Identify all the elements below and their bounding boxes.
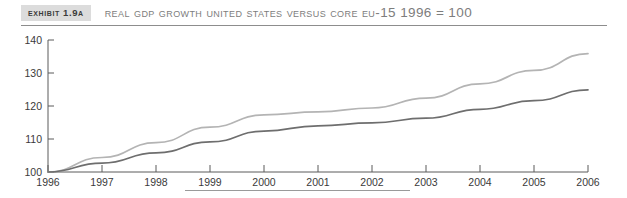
x-axis-tick-label: 2000 — [252, 176, 276, 188]
y-axis: 100110120130140 — [24, 34, 54, 178]
x-axis-tick-label: 1996 — [36, 176, 60, 188]
chart-plot-area: 100110120130140 199619971998199920002001… — [0, 26, 627, 198]
x-axis-tick-label: 2006 — [576, 176, 600, 188]
footer-divider — [185, 190, 410, 191]
x-axis-tick-label: 2004 — [468, 176, 492, 188]
chart-series-line — [48, 54, 588, 172]
line-chart-svg: 100110120130140 199619971998199920002001… — [0, 26, 627, 198]
y-axis-tick-label: 120 — [24, 100, 42, 112]
x-axis-tick-label: 2005 — [522, 176, 546, 188]
x-axis-tick-label: 1997 — [90, 176, 114, 188]
x-axis-tick-label: 2003 — [414, 176, 438, 188]
x-axis-tick-label: 2002 — [360, 176, 384, 188]
chart-series-group — [48, 54, 588, 172]
exhibit-number-badge: Exhibit 1.9A — [21, 5, 91, 21]
x-axis-tick-label: 1999 — [198, 176, 222, 188]
y-axis-tick-label: 130 — [24, 67, 42, 79]
y-axis-tick-label: 110 — [25, 133, 42, 145]
x-axis-tick-label: 2001 — [306, 176, 330, 188]
page-title: Real GDP Growth United States versus Cor… — [105, 6, 472, 20]
y-axis-tick-label: 140 — [24, 34, 42, 46]
x-axis: 1996199719981999200020012002200320042005… — [36, 165, 600, 188]
x-axis-tick-label: 1998 — [144, 176, 168, 188]
exhibit-header: Exhibit 1.9A Real GDP Growth United Stat… — [0, 0, 627, 26]
chart-series-line — [48, 90, 588, 172]
exhibit-figure: Exhibit 1.9A Real GDP Growth United Stat… — [0, 0, 627, 198]
